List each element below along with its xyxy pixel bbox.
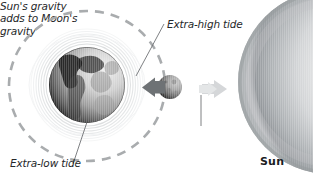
label-extra-low-tide: Extra-low tide	[10, 157, 81, 169]
diagram-canvas	[0, 0, 313, 181]
sun-gravity-arrow	[199, 80, 227, 98]
sun-body	[238, 0, 313, 174]
label-extra-high-tide: Extra-high tide	[167, 18, 243, 30]
earth-body	[49, 47, 125, 123]
label-sun: Sun	[260, 156, 284, 168]
tide-diagram: Extra-high tide Extra-low tide Sun's gra…	[0, 0, 313, 181]
